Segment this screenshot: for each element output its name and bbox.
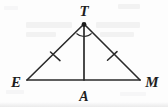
segment-ET <box>27 24 84 80</box>
vertex-label-T: T <box>79 3 89 19</box>
geometry-figure: T E M A <box>0 0 168 107</box>
vertex-label-A: A <box>78 89 88 104</box>
angle-arc-right-at-T <box>84 33 92 36</box>
vertex-dot-T <box>82 22 87 27</box>
triangle-drawing: T E M A <box>0 0 168 107</box>
angle-arc-left-at-T <box>77 34 85 37</box>
vertex-label-M: M <box>144 74 159 90</box>
vertex-label-E: E <box>10 74 21 90</box>
segment-TM <box>84 24 140 80</box>
